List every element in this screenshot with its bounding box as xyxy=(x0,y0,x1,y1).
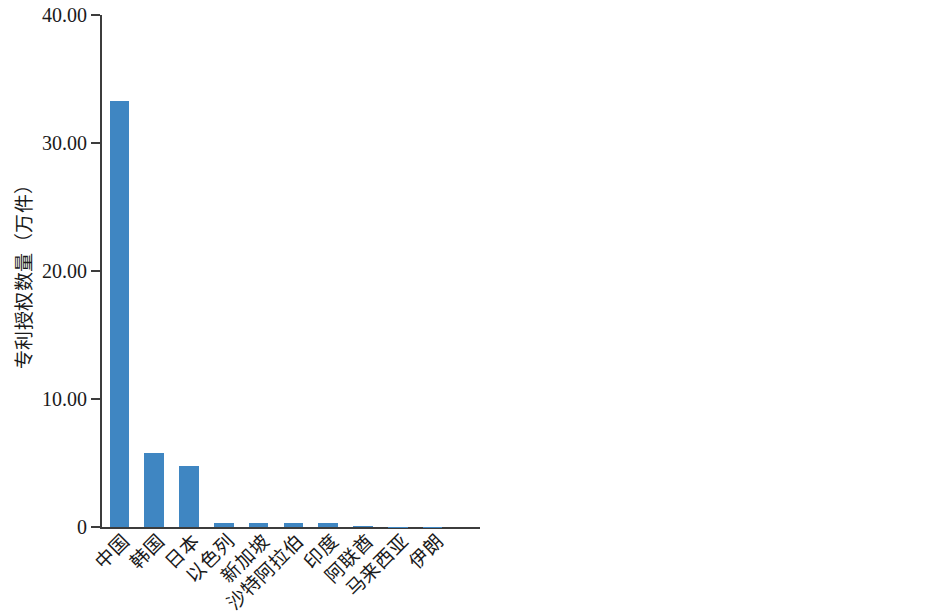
left-bar-group xyxy=(102,15,450,527)
left-chart-panel: 专利授权数量（万件） 中国韩国日本以色列新加坡沙特阿拉伯印度阿联酋马来西亚伊朗 … xyxy=(0,0,470,615)
right-chart-panel: 专利授权数量（件） 文莱巴林尼泊尔塔吉克斯坦叙利亚亚美尼亚阿富汗缅甸约旦柬埔寨 … xyxy=(470,0,937,615)
left-y-tick xyxy=(91,14,100,16)
bar-slot xyxy=(137,15,172,527)
left-y-tick-label: 20.00 xyxy=(42,261,87,281)
left-y-tick xyxy=(91,526,100,528)
bar-slot xyxy=(346,15,381,527)
bar-slot xyxy=(380,15,415,527)
left-y-tick xyxy=(91,398,100,400)
left-y-tick-label: 40.00 xyxy=(42,5,87,25)
bar-slot xyxy=(102,15,137,527)
bar-slot xyxy=(172,15,207,527)
bar-slot xyxy=(311,15,346,527)
bar-slot xyxy=(415,15,450,527)
category-label: 伊朗 xyxy=(405,531,446,572)
bar-slot xyxy=(206,15,241,527)
left-y-tick-label: 0 xyxy=(77,517,87,537)
two-panel-bar-chart-figure: 专利授权数量（万件） 中国韩国日本以色列新加坡沙特阿拉伯印度阿联酋马来西亚伊朗 … xyxy=(0,0,937,615)
category-label: 韩国 xyxy=(127,531,168,572)
left-y-tick xyxy=(91,270,100,272)
left-y-axis-title: 专利授权数量（万件） xyxy=(9,162,36,382)
left-category-labels: 中国韩国日本以色列新加坡沙特阿拉伯印度阿联酋马来西亚伊朗 xyxy=(102,527,450,615)
left-y-tick-label: 30.00 xyxy=(42,133,87,153)
left-y-tick-label: 10.00 xyxy=(42,389,87,409)
bar xyxy=(110,101,129,527)
bar xyxy=(144,453,163,527)
bar-slot xyxy=(276,15,311,527)
category-label: 中国 xyxy=(92,531,133,572)
bar-slot xyxy=(241,15,276,527)
bar xyxy=(179,466,198,527)
left-plot-area: 中国韩国日本以色列新加坡沙特阿拉伯印度阿联酋马来西亚伊朗 010.0020.00… xyxy=(100,15,450,527)
left-y-tick xyxy=(91,142,100,144)
